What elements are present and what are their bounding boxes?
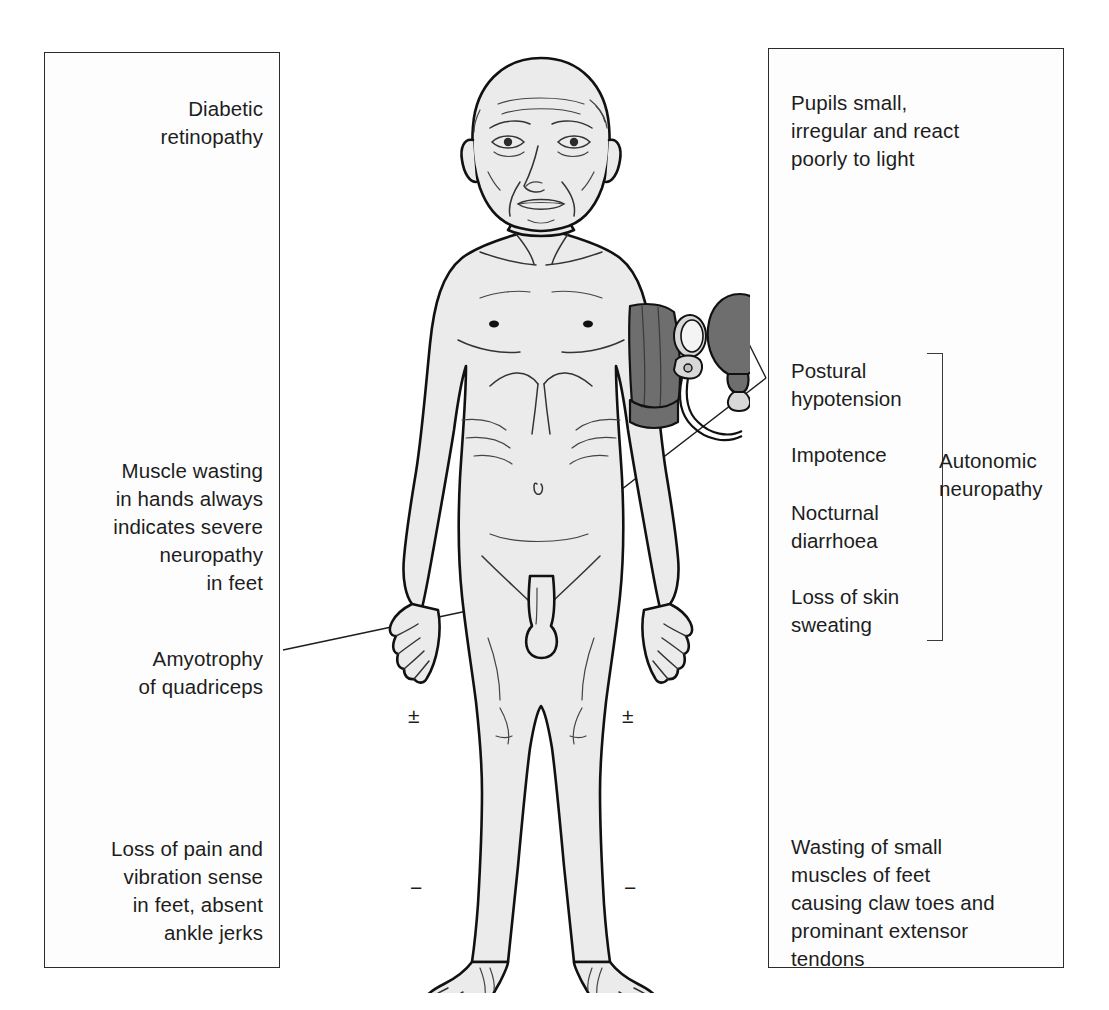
right-annotation-panel: Pupils small, irregular and react poorly…	[768, 48, 1064, 968]
reflex-mark-ankle-right: −	[624, 876, 636, 900]
head	[461, 58, 620, 231]
autonomic-item-postural-hypotension: Postural hypotension	[791, 357, 921, 413]
foot-left	[424, 962, 508, 993]
note-wasting-small-muscles-feet: Wasting of small muscles of feet causing…	[791, 833, 1057, 973]
reflex-mark-knee-left: ±	[408, 704, 420, 728]
nipple-right	[583, 321, 593, 328]
inflation-bulb	[708, 294, 750, 377]
note-autonomic-neuropathy-label: Autonomic neuropathy	[939, 447, 1057, 503]
note-muscle-wasting-hands: Muscle wasting in hands always indicates…	[59, 457, 263, 597]
foot-right	[574, 962, 658, 993]
autonomic-item-nocturnal-diarrhoea: Nocturnal diarrhoea	[791, 499, 921, 555]
autonomic-item-impotence: Impotence	[791, 441, 921, 469]
figure-svg: .sk { fill:#ebebeb; stroke:#111111; stro…	[330, 48, 750, 993]
hand-right	[643, 604, 693, 683]
bulb-valve	[728, 392, 750, 411]
reflex-mark-ankle-left: −	[410, 876, 422, 900]
note-loss-of-pain-vibration: Loss of pain and vibration sense in feet…	[55, 835, 263, 947]
autonomic-item-loss-of-skin-sweating: Loss of skin sweating	[791, 583, 921, 639]
note-diabetic-retinopathy: Diabetic retinopathy	[63, 95, 263, 151]
human-figure-illustration: .sk { fill:#ebebeb; stroke:#111111; stro…	[330, 48, 750, 993]
left-annotation-panel: Diabetic retinopathy Muscle wasting in h…	[44, 52, 280, 968]
reflex-mark-knee-right: ±	[622, 704, 634, 728]
note-pupils-small-irregular: Pupils small, irregular and react poorly…	[791, 89, 1041, 173]
blood-pressure-cuff	[629, 294, 750, 440]
diagram-canvas: Diabetic retinopathy Muscle wasting in h…	[0, 0, 1109, 1010]
note-amyotrophy-quadriceps: Amyotrophy of quadriceps	[59, 645, 263, 701]
genitalia	[526, 576, 557, 658]
hand-left	[390, 604, 440, 683]
nipple-left	[489, 321, 499, 328]
